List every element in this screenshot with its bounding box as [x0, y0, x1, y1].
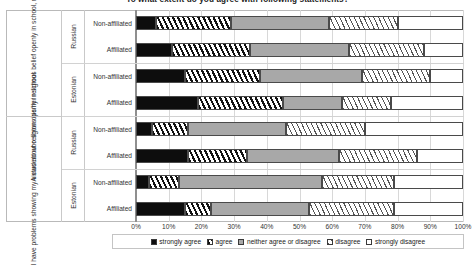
bar-segment-strongly-agree: [136, 43, 172, 57]
bar-segment-strongly-agree: [136, 175, 149, 189]
legend-item-agree[interactable]: agree: [207, 238, 232, 245]
x-axis-tick-label: 100%: [455, 223, 472, 230]
bar-segment-strongly-disagree: [417, 149, 463, 163]
bar-segment-strongly-agree: [136, 16, 156, 30]
bar-segment-neither-agree-or-disagree: [260, 69, 361, 83]
x-axis-tick-label: 70%: [358, 223, 371, 230]
bar-segment-neither-agree-or-disagree: [179, 175, 323, 189]
bar-segment-strongly-disagree: [430, 69, 463, 83]
nationality-label-russian-2: Russian: [62, 116, 84, 169]
legend-label: strongly agree: [159, 238, 201, 245]
bar-segment-strongly-agree: [136, 96, 198, 110]
nationality-label-estonian-1: Estonian: [62, 63, 84, 116]
x-axis-tick-label: 20%: [195, 223, 208, 230]
bar-segment-agree: [172, 43, 250, 57]
bar-row: [136, 202, 463, 216]
bar-segment-agree: [149, 175, 178, 189]
bar-segment-agree: [188, 149, 247, 163]
row-label-non-affiliated: Non-affiliated: [93, 116, 132, 143]
x-axis-tick-label: 90%: [424, 223, 437, 230]
bar-segment-neither-agree-or-disagree: [283, 96, 342, 110]
nationality-label-estonian-2: Estonian: [62, 169, 84, 222]
nationality-label-text: Russian: [70, 130, 77, 155]
bar-segment-agree: [152, 122, 188, 136]
row-label-non-affiliated: Non-affiliated: [93, 10, 132, 37]
x-axis-tick-label: 50%: [293, 223, 306, 230]
bar-segment-neither-agree-or-disagree: [188, 122, 286, 136]
bar-segment-strongly-disagree: [398, 16, 463, 30]
legend-label: neither agree or disagree: [247, 238, 321, 245]
nationality-separator: [62, 63, 464, 64]
statement-label-group-2-text: I have problems showing my views about r…: [30, 73, 38, 265]
nationality-separator: [62, 116, 464, 117]
bar-segment-neither-agree-or-disagree: [247, 149, 339, 163]
bar-segment-strongly-disagree: [424, 43, 463, 57]
legend-swatch-strongly-disagree-icon: [366, 239, 372, 245]
bar-segment-disagree: [286, 122, 364, 136]
bar-segment-strongly-disagree: [365, 122, 463, 136]
row-label-non-affiliated: Non-affiliated: [93, 63, 132, 90]
bar-row: [136, 149, 463, 163]
bar-row: [136, 69, 463, 83]
bar-segment-agree: [198, 96, 283, 110]
bar-row: [136, 122, 463, 136]
x-axis-tick-label: 30%: [227, 223, 240, 230]
bar-row: [136, 175, 463, 189]
bar-row: [136, 43, 463, 57]
bar-segment-neither-agree-or-disagree: [250, 43, 348, 57]
bar-segment-strongly-agree: [136, 69, 185, 83]
bar-segment-neither-agree-or-disagree: [231, 16, 329, 30]
x-axis-tick-label: 0%: [131, 223, 141, 230]
legend-item-strongly-disagree[interactable]: strongly disagree: [366, 238, 425, 245]
x-axis-tick-label: 80%: [391, 223, 404, 230]
bar-segment-disagree: [322, 175, 394, 189]
nationality-label-text: Estonian: [70, 182, 77, 208]
legend-label: agree: [216, 238, 233, 245]
row-label-affiliated: Affiliated: [107, 196, 132, 223]
legend-item-neither-agree-or-disagree[interactable]: neither agree or disagree: [238, 238, 320, 245]
bar-segment-disagree: [309, 202, 394, 216]
nationality-label-text: Estonian: [70, 76, 77, 102]
x-axis-tick-label: 60%: [326, 223, 339, 230]
legend-swatch-strongly-agree-icon: [151, 239, 157, 245]
legend-swatch-disagree-icon: [327, 239, 333, 245]
bar-segment-disagree: [349, 43, 424, 57]
bar-segment-strongly-disagree: [391, 96, 463, 110]
bar-segment-strongly-agree: [136, 149, 188, 163]
bar-segment-agree: [156, 16, 231, 30]
legend-item-disagree[interactable]: disagree: [327, 238, 361, 245]
legend-swatch-agree-icon: [207, 239, 213, 245]
bar-segment-disagree: [329, 16, 398, 30]
bar-row: [136, 16, 463, 30]
bar-segment-strongly-disagree: [394, 175, 463, 189]
row-label-non-affiliated: Non-affiliated: [93, 169, 132, 196]
x-axis-tick-label: 10%: [162, 223, 175, 230]
bar-segment-neither-agree-or-disagree: [211, 202, 309, 216]
chart-title: To what extent do you agree with followi…: [0, 0, 475, 4]
bar-segment-strongly-agree: [136, 202, 185, 216]
bar-row: [136, 96, 463, 110]
row-label-affiliated: Affiliated: [107, 37, 132, 64]
bar-segment-disagree: [339, 149, 417, 163]
bar-segment-agree: [185, 202, 211, 216]
bar-segment-agree: [185, 69, 260, 83]
legend-swatch-neither-agree-or-disagree-icon: [238, 239, 244, 245]
x-axis-tick-label: 40%: [260, 223, 273, 230]
bar-segment-strongly-agree: [136, 122, 152, 136]
legend-item-strongly-agree[interactable]: strongly agree: [151, 238, 201, 245]
row-label-affiliated: Affiliated: [107, 143, 132, 170]
bar-segment-strongly-disagree: [394, 202, 463, 216]
row-label-affiliated: Affiliated: [107, 90, 132, 117]
legend-label: strongly disagree: [375, 238, 425, 245]
nationality-separator: [62, 169, 464, 170]
statement-label-group-2: I have problems showing my views about r…: [6, 116, 62, 222]
legend: strongly agreeagreeneither agree or disa…: [112, 234, 464, 249]
nationality-label-russian-1: Russian: [62, 10, 84, 63]
bar-segment-disagree: [342, 96, 391, 110]
nationality-label-text: Russian: [70, 24, 77, 49]
legend-label: disagree: [335, 238, 360, 245]
bar-segment-disagree: [362, 69, 431, 83]
